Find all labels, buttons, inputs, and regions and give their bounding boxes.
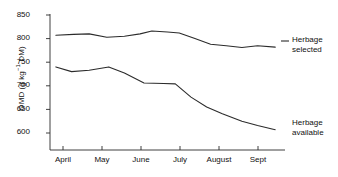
line-herbage-available <box>56 67 275 130</box>
legend-label-available-line1: Herbage <box>292 118 324 128</box>
legend-label-herbage-selected: Herbage selected <box>292 35 323 54</box>
chart-figure: OMD (g kg−1 DM) 850 800 750 700 650 600 … <box>0 0 338 177</box>
line-herbage-selected <box>56 31 275 48</box>
legend-label-selected-line1: Herbage <box>292 35 323 45</box>
legend-label-selected-line2: selected <box>292 45 323 55</box>
legend-label-available-line2: available <box>292 128 324 138</box>
chart-plot-area <box>0 0 338 177</box>
legend-label-herbage-available: Herbage available <box>292 118 324 137</box>
x-axis-ticks <box>63 146 258 150</box>
y-axis-ticks <box>46 15 50 133</box>
